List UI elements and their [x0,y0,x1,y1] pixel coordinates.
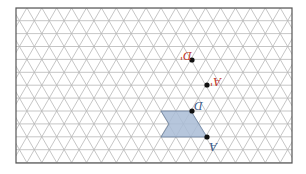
point-label-d-image: D' [180,50,192,61]
point-label-a: A [209,141,217,152]
point-a [204,134,209,139]
point-a-image [204,82,209,87]
point-label-d: D [194,100,203,111]
triangle-grid-diagram [0,0,306,174]
point-label-a-image: A' [210,76,221,87]
